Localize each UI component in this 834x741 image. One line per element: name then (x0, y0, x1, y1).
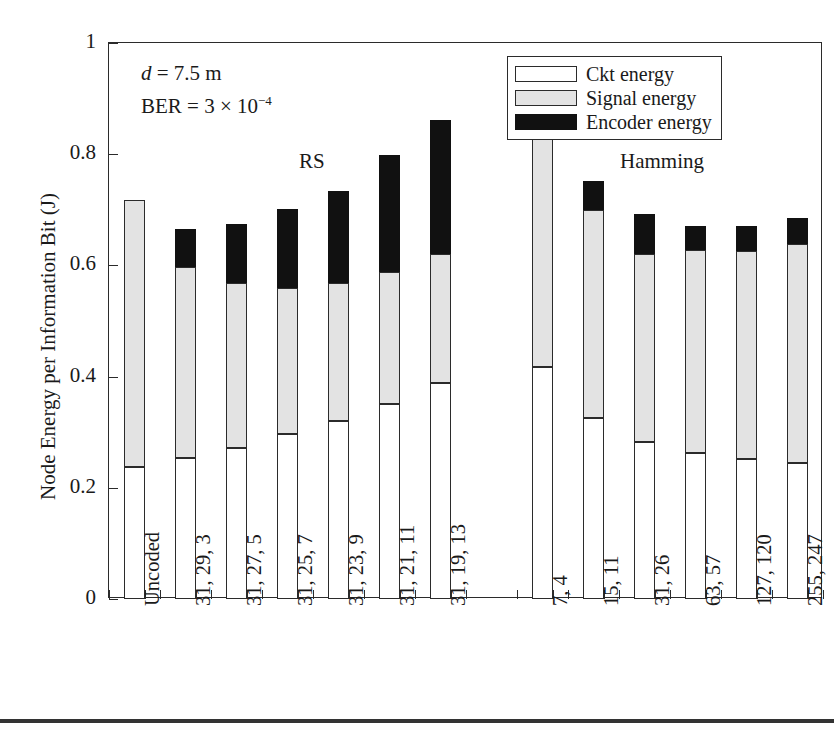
legend-label-signal: Signal energy (586, 88, 696, 108)
x-tick-8 (517, 590, 518, 599)
x-tick-label-12: 255, 247 (804, 534, 827, 606)
bar-10-segment-signal-energy (685, 250, 705, 453)
bar-1 (175, 43, 195, 599)
x-tick-label-8: 15, 11 (600, 556, 623, 607)
bar-3-segment-encoder-energy (277, 209, 297, 288)
bar-9-segment-encoder-energy (634, 214, 654, 254)
distance-annotation: d = 7.5 m (141, 59, 272, 87)
y-tick-3 (109, 265, 118, 266)
x-tick-label-6: 31, 19, 13 (447, 524, 470, 606)
bar-4 (328, 43, 348, 599)
group-label-rs: RS (299, 149, 325, 174)
bar-11 (736, 43, 756, 599)
y-tick-0 (109, 599, 118, 600)
x-tick-0 (109, 590, 110, 599)
distance-value: = 7.5 m (152, 61, 222, 85)
y-tick-2 (109, 377, 118, 378)
bar-4-segment-encoder-energy (328, 191, 348, 283)
parameter-annotation: d = 7.5 m BER = 3 × 10−4 (141, 59, 272, 120)
footer-rule (0, 719, 834, 723)
distance-symbol: d (141, 61, 152, 85)
x-tick-label-4: 31, 23, 9 (345, 534, 368, 606)
x-tick-label-3: 31, 25, 7 (294, 534, 317, 606)
bar-12 (787, 43, 807, 599)
bar-12-segment-signal-energy (787, 244, 807, 463)
x-tick-label-11: 127, 120 (753, 534, 776, 606)
x-tick-label-9: 31, 26 (651, 555, 674, 606)
legend-item-signal: Signal energy (515, 86, 712, 110)
legend-swatch-encoder-icon (515, 114, 577, 130)
bar-6-segment-encoder-energy (430, 120, 450, 254)
bar-2 (226, 43, 246, 599)
y-axis-label: Node Energy per Information Bit (J) (36, 193, 61, 500)
bar-2-segment-encoder-energy (226, 224, 246, 283)
y-tick-1 (109, 488, 118, 489)
bar-0-segment-signal-energy (124, 200, 144, 467)
bar-7-segment-ckt-energy (532, 367, 552, 599)
y-tick-label-5: 1 (26, 31, 96, 52)
y-axis-label-wrapper: Node Energy per Information Bit (J) (36, 500, 48, 512)
bar-2-segment-signal-energy (226, 283, 246, 448)
x-tick-label-5: 31, 21, 11 (396, 525, 419, 606)
bar-1-segment-encoder-energy (175, 229, 195, 267)
legend: Ckt energy Signal energy Encoder energy (507, 56, 722, 140)
y-tick-5 (109, 43, 118, 44)
ber-value: BER = 3 × 10 (141, 94, 258, 118)
y-tick-label-3: 0.6 (26, 253, 96, 274)
bar-5 (379, 43, 399, 599)
bar-3 (277, 43, 297, 599)
x-tick-label-1: 31, 29, 3 (192, 534, 215, 606)
y-tick-label-1: 0.2 (26, 476, 96, 497)
y-tick-label-4: 0.8 (26, 142, 96, 163)
bar-11-segment-signal-energy (736, 251, 756, 460)
legend-label-ckt: Ckt energy (586, 64, 674, 84)
bar-8-segment-encoder-energy (583, 181, 603, 209)
ber-annotation: BER = 3 × 10−4 (141, 87, 272, 120)
bar-11-segment-encoder-energy (736, 226, 756, 251)
bar-10-segment-encoder-energy (685, 226, 705, 250)
bar-1-segment-signal-energy (175, 267, 195, 459)
ber-exponent: −4 (258, 93, 272, 108)
legend-item-ckt: Ckt energy (515, 62, 712, 86)
x-tick-label-7: 7, 4 (549, 575, 572, 606)
bar-7-segment-signal-energy (532, 136, 552, 367)
bar-6-segment-signal-energy (430, 254, 450, 382)
bar-8-segment-signal-energy (583, 210, 603, 419)
bar-12-segment-encoder-energy (787, 218, 807, 244)
figure-container: Node Energy per Information Bit (J) 00.2… (0, 0, 834, 741)
legend-swatch-signal-icon (515, 90, 577, 106)
legend-item-encoder: Encoder energy (515, 110, 712, 134)
plot-area: RS Hamming d = 7.5 m BER = 3 × 10−4 Ckt … (108, 42, 822, 598)
group-label-hamming: Hamming (620, 149, 704, 174)
y-tick-label-0: 0 (26, 587, 96, 608)
y-tick-label-2: 0.4 (26, 365, 96, 386)
bar-5-segment-signal-energy (379, 272, 399, 404)
bar-0 (124, 43, 144, 599)
x-tick-label-10: 63, 57 (702, 555, 725, 606)
x-tick-label-2: 31, 27, 5 (243, 534, 266, 606)
bar-3-segment-signal-energy (277, 288, 297, 434)
bar-9-segment-signal-energy (634, 254, 654, 441)
bar-5-segment-encoder-energy (379, 155, 399, 272)
x-tick-label-0: Uncoded (141, 532, 164, 606)
y-tick-4 (109, 154, 118, 155)
legend-swatch-ckt-icon (515, 66, 577, 82)
bar-6 (430, 43, 450, 599)
bar-4-segment-signal-energy (328, 283, 348, 420)
legend-label-encoder: Encoder energy (586, 112, 712, 132)
